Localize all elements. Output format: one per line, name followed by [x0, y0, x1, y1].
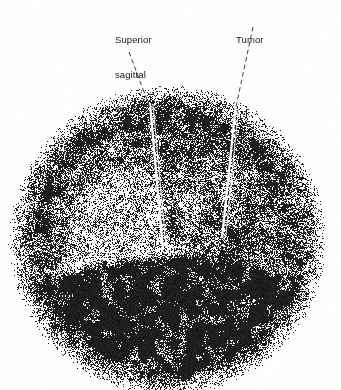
label-superior-sagittal-sinus: Superior sagittal sinus — [115, 11, 152, 138]
label-line-sinus: sinus — [115, 103, 152, 115]
label-tumor: Tumor — [236, 11, 264, 69]
label-line-superior: Superior — [115, 34, 152, 46]
label-line-sagittal: sagittal — [115, 69, 152, 81]
brain-scan-figure: Superior sagittal sinus Tumor — [0, 0, 341, 390]
radionuclide-brain-scan-image — [0, 0, 341, 390]
label-line-tumor: Tumor — [236, 34, 264, 46]
